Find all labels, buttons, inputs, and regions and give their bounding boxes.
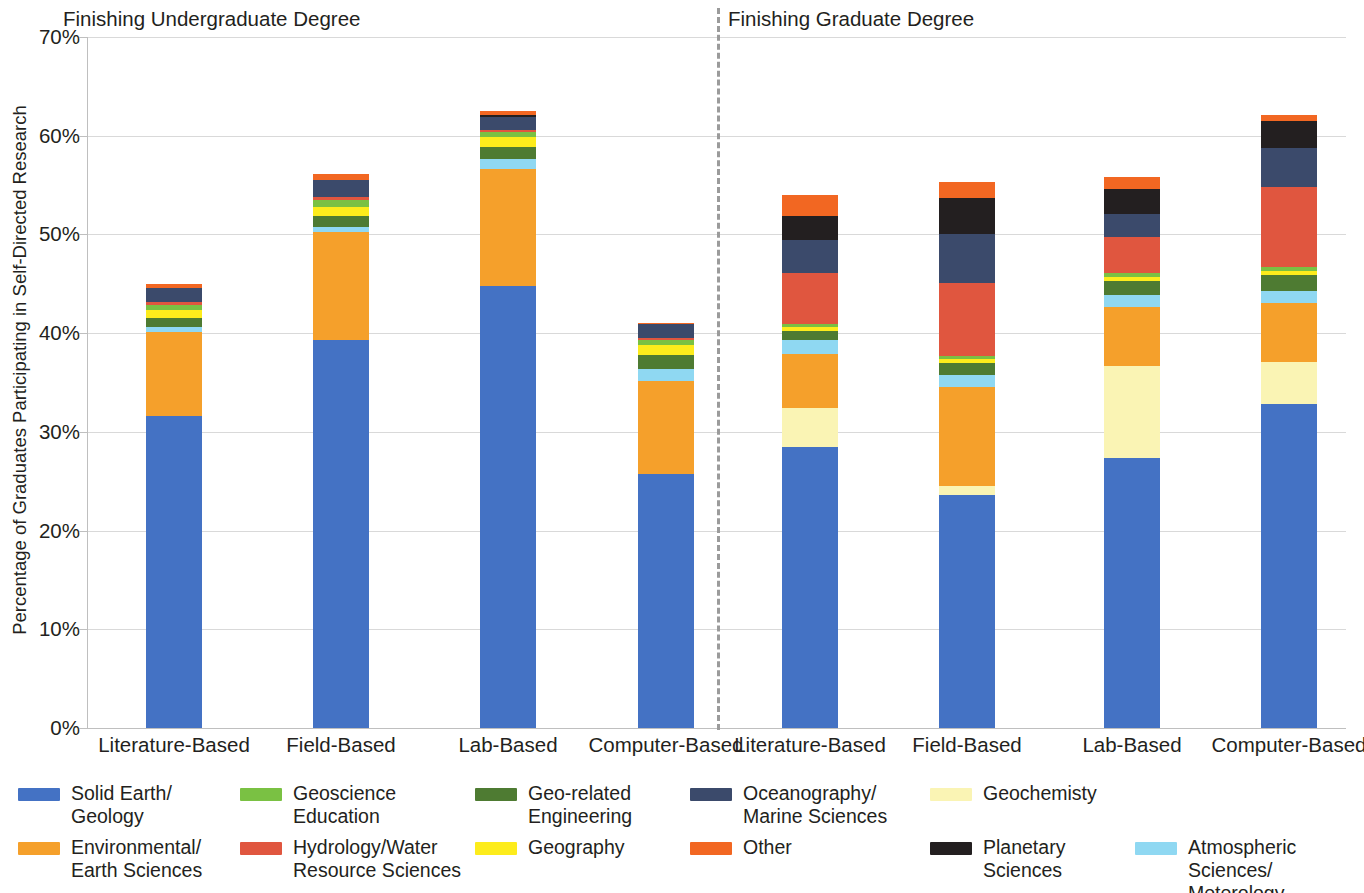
bar-segment[interactable]: [1261, 121, 1317, 148]
stacked-bar[interactable]: [146, 284, 202, 728]
bar-segment[interactable]: [782, 354, 838, 408]
x-tick-label: Literature-Based: [98, 733, 250, 757]
bar-segment[interactable]: [146, 416, 202, 728]
legend-swatch-icon: [1135, 842, 1177, 855]
bar-segment[interactable]: [638, 381, 694, 475]
bar-segment[interactable]: [1104, 237, 1160, 273]
bar-segment[interactable]: [939, 486, 995, 495]
bar-segment[interactable]: [480, 286, 536, 728]
bar-segment[interactable]: [782, 331, 838, 340]
y-tick-label: 0%: [50, 716, 80, 740]
bar-segment[interactable]: [480, 159, 536, 169]
legend-label: Geoscience Education: [293, 782, 396, 828]
group-divider: [717, 8, 720, 730]
bar-segment[interactable]: [146, 310, 202, 318]
bar-segment[interactable]: [480, 147, 536, 160]
legend-swatch-icon: [240, 842, 282, 855]
bar-segment[interactable]: [939, 387, 995, 486]
y-tick-label: 60%: [39, 124, 80, 148]
bar-segment[interactable]: [313, 232, 369, 340]
bar-segment[interactable]: [939, 283, 995, 356]
legend-item[interactable]: Geochemisty: [930, 782, 1097, 805]
bar-segment[interactable]: [1261, 303, 1317, 362]
legend-label: Geography: [528, 836, 624, 859]
bar-segment[interactable]: [1261, 404, 1317, 728]
bar-segment[interactable]: [782, 216, 838, 241]
bar-segment[interactable]: [146, 288, 202, 302]
y-tick-label: 50%: [39, 222, 80, 246]
bar-segment[interactable]: [939, 495, 995, 728]
bar-segment[interactable]: [638, 324, 694, 338]
legend-item[interactable]: Environmental/ Earth Sciences: [18, 836, 202, 882]
stacked-bar[interactable]: [480, 111, 536, 728]
bar-segment[interactable]: [1104, 307, 1160, 366]
legend-label: Hydrology/Water Resource Sciences: [293, 836, 461, 882]
bar-segment[interactable]: [638, 355, 694, 369]
legend-swatch-icon: [18, 788, 60, 801]
legend-item[interactable]: Atmospheric Sciences/ Meterology: [1135, 836, 1364, 893]
bar-segment[interactable]: [313, 207, 369, 216]
bar-segment[interactable]: [939, 198, 995, 234]
bar-segment[interactable]: [782, 273, 838, 324]
bar-segment[interactable]: [146, 318, 202, 327]
bar-segment[interactable]: [1104, 214, 1160, 238]
legend-item[interactable]: Geography: [475, 836, 624, 859]
legend-item[interactable]: Geoscience Education: [240, 782, 396, 828]
stacked-bar[interactable]: [313, 174, 369, 728]
chart-root: Percentage of Graduates Participating in…: [0, 0, 1364, 893]
bar-segment[interactable]: [638, 369, 694, 381]
stacked-bar[interactable]: [1104, 177, 1160, 728]
legend-item[interactable]: Oceanography/ Marine Sciences: [690, 782, 887, 828]
bar-segment[interactable]: [1261, 187, 1317, 267]
stacked-bar[interactable]: [939, 182, 995, 728]
legend-label: Solid Earth/ Geology: [71, 782, 172, 828]
bar-segment[interactable]: [1104, 458, 1160, 728]
bar-segment[interactable]: [146, 332, 202, 416]
bar-segment[interactable]: [313, 216, 369, 227]
bar-segment[interactable]: [782, 447, 838, 728]
y-tick-mark: [79, 728, 88, 729]
bar-segment[interactable]: [782, 408, 838, 446]
stacked-bar[interactable]: [1261, 115, 1317, 728]
bar-segment[interactable]: [1261, 362, 1317, 404]
legend-label: Planetary Sciences: [983, 836, 1065, 882]
bar-segment[interactable]: [782, 240, 838, 273]
legend-item[interactable]: Planetary Sciences: [930, 836, 1065, 882]
legend-item[interactable]: Other: [690, 836, 792, 859]
bar-segment[interactable]: [782, 195, 838, 216]
x-tick-label: Field-Based: [286, 733, 395, 757]
y-tick-label: 30%: [39, 420, 80, 444]
bar-segment[interactable]: [939, 182, 995, 198]
x-tick-label: Computer-Based: [589, 733, 744, 757]
bar-segment[interactable]: [1104, 177, 1160, 189]
bar-segment[interactable]: [1261, 148, 1317, 187]
bar-segment[interactable]: [1104, 189, 1160, 214]
legend-item[interactable]: Geo-related Engineering: [475, 782, 632, 828]
bar-segment[interactable]: [782, 340, 838, 354]
bar-segment[interactable]: [638, 345, 694, 355]
legend-swatch-icon: [690, 788, 732, 801]
legend-swatch-icon: [690, 842, 732, 855]
bar-segment[interactable]: [480, 117, 536, 130]
bar-segment[interactable]: [939, 234, 995, 283]
bar-segment[interactable]: [313, 340, 369, 728]
bar-segment[interactable]: [939, 375, 995, 388]
bar-segment[interactable]: [313, 180, 369, 197]
x-tick-label: Literature-Based: [734, 733, 886, 757]
bar-segment[interactable]: [1104, 366, 1160, 458]
bar-segment[interactable]: [1104, 281, 1160, 295]
stacked-bar[interactable]: [782, 195, 838, 728]
legend-item[interactable]: Solid Earth/ Geology: [18, 782, 172, 828]
legend-item[interactable]: Hydrology/Water Resource Sciences: [240, 836, 461, 882]
bar-segment[interactable]: [480, 169, 536, 285]
stacked-bar[interactable]: [638, 323, 694, 728]
y-tick-label: 10%: [39, 617, 80, 641]
bar-segment[interactable]: [1104, 295, 1160, 307]
bar-segment[interactable]: [1261, 291, 1317, 303]
bar-segment[interactable]: [939, 363, 995, 375]
bar-segment[interactable]: [638, 474, 694, 728]
bar-segment[interactable]: [480, 137, 536, 147]
legend-swatch-icon: [240, 788, 282, 801]
bar-segment[interactable]: [1261, 275, 1317, 291]
bar-segment[interactable]: [313, 200, 369, 207]
